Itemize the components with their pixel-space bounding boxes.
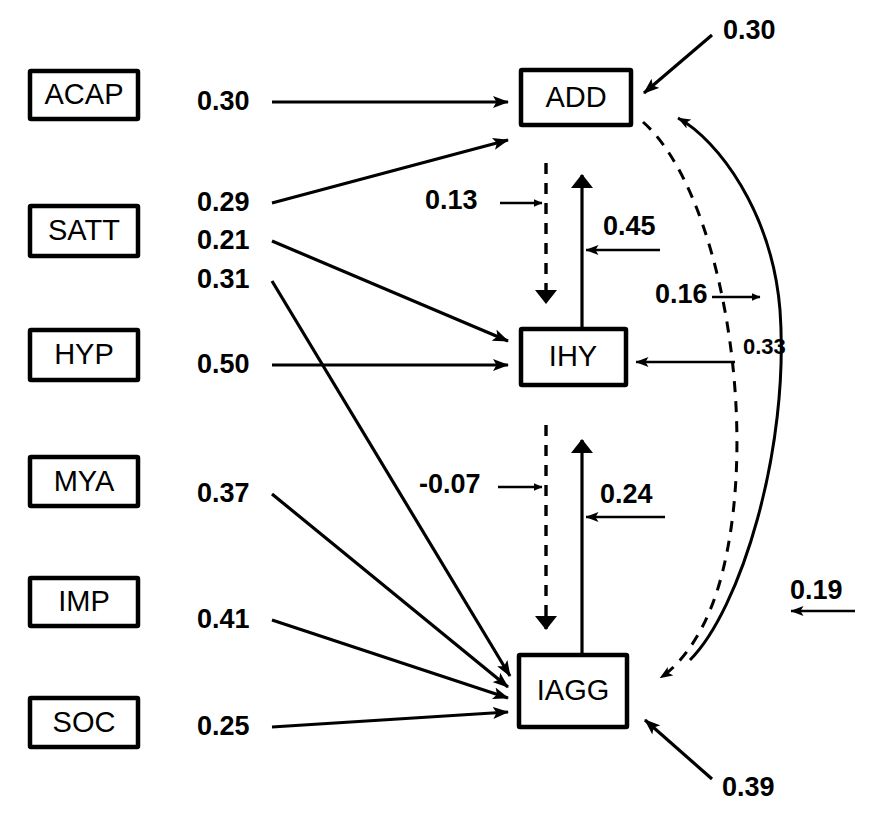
coef-label-add-to-ihy: 0.13 (425, 185, 478, 215)
coef-label-imp-to-iagg: 0.41 (197, 604, 250, 634)
exogenous-box-imp-label: IMP (58, 585, 110, 617)
coef-label-disturbance-iagg: 0.39 (722, 772, 775, 802)
path-curve-add-to-iagg-dashed (643, 122, 737, 678)
exogenous-box-soc: SOC (30, 698, 138, 747)
path-curve-iagg-to-add-solid (678, 118, 781, 660)
exogenous-box-satt-label: SATT (48, 214, 120, 246)
coef-label-satt-to-ihy: 0.21 (197, 225, 250, 255)
disturbance-arrow-iagg (645, 720, 712, 779)
endogenous-box-iagg: IAGG (519, 655, 627, 727)
diagram-svg: ACAP SATT HYP MYA IMP SOC (0, 0, 873, 823)
exogenous-box-imp: IMP (30, 578, 138, 626)
exogenous-box-soc-label: SOC (53, 706, 116, 738)
coef-label-ihy-to-add: 0.45 (603, 211, 656, 241)
exogenous-box-acap-label: ACAP (45, 78, 124, 110)
exogenous-box-hyp-label: HYP (54, 338, 114, 370)
path-diagram-canvas: ACAP SATT HYP MYA IMP SOC (0, 0, 873, 823)
coef-label-disturbance-ihy: 0.33 (743, 334, 786, 359)
coef-label-hyp-to-ihy: 0.50 (197, 349, 250, 379)
exogenous-box-mya-label: MYA (54, 465, 115, 497)
exogenous-box-acap: ACAP (30, 71, 138, 119)
exogenous-box-satt: SATT (30, 206, 138, 256)
coef-label-acap-to-add: 0.30 (197, 86, 250, 116)
coef-label-iagg-to-add: 0.19 (790, 575, 843, 605)
coef-label-iagg-to-ihy: 0.24 (600, 479, 653, 509)
coef-label-disturbance-add: 0.30 (723, 15, 776, 45)
endogenous-box-ihy: IHY (521, 329, 626, 385)
path-arrow-soc-to-iagg (272, 712, 508, 727)
coef-label-satt-to-add: 0.29 (197, 187, 250, 217)
exogenous-box-mya: MYA (30, 457, 138, 506)
exogenous-box-hyp: HYP (30, 330, 138, 380)
coef-label-mya-to-iagg: 0.37 (197, 478, 250, 508)
coef-label-ihy-to-iagg: -0.07 (419, 469, 481, 499)
endogenous-box-iagg-label: IAGG (537, 674, 610, 706)
coef-label-add-to-iagg: 0.16 (655, 279, 708, 309)
path-arrow-satt-to-ihy (272, 241, 508, 341)
disturbance-arrow-add (644, 35, 712, 93)
endogenous-box-ihy-label: IHY (549, 340, 597, 372)
coef-label-soc-to-iagg: 0.25 (197, 711, 250, 741)
coef-label-hyp-to-iagg: 0.31 (197, 264, 250, 294)
endogenous-box-add: ADD (521, 70, 631, 125)
endogenous-box-add-label: ADD (545, 81, 606, 113)
